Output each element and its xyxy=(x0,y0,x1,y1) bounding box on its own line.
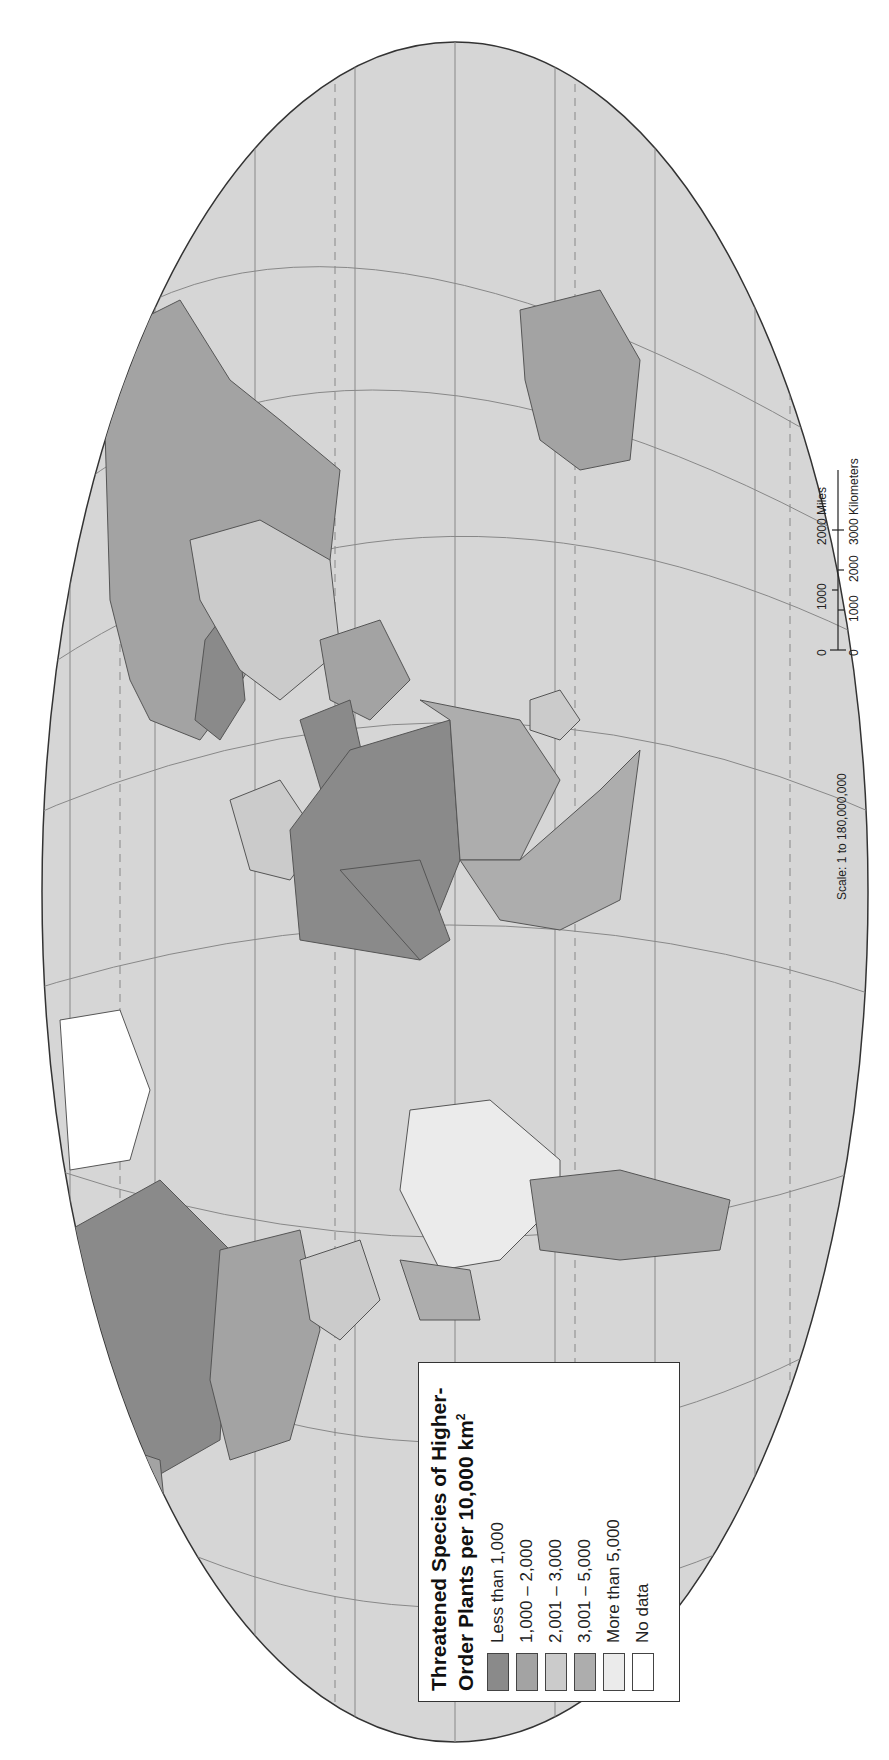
legend-item: 3,001 – 5,000 xyxy=(570,1373,599,1691)
legend-item: More than 5,000 xyxy=(599,1373,628,1691)
legend-swatch xyxy=(516,1653,538,1691)
legend-item: Less than 1,000 xyxy=(483,1373,512,1691)
scale-caption: Scale: 1 to 180,000,000 xyxy=(835,773,849,900)
legend-swatch xyxy=(574,1653,596,1691)
svg-text:1000: 1000 xyxy=(847,595,861,622)
svg-text:2000 Miles: 2000 Miles xyxy=(815,487,829,545)
legend-title: Threatened Species of Higher- Order Plan… xyxy=(427,1373,477,1691)
svg-text:3000 Kilometers: 3000 Kilometers xyxy=(847,458,861,545)
legend-swatch xyxy=(632,1653,654,1691)
svg-text:1000: 1000 xyxy=(815,583,829,610)
legend-item: 2,001 – 3,000 xyxy=(541,1373,570,1691)
legend-item: No data xyxy=(628,1373,657,1691)
legend-swatch xyxy=(603,1653,625,1691)
legend-swatch xyxy=(487,1653,509,1691)
legend-swatch xyxy=(545,1653,567,1691)
svg-text:2000: 2000 xyxy=(847,555,861,582)
legend: Threatened Species of Higher- Order Plan… xyxy=(418,1362,680,1702)
svg-text:0: 0 xyxy=(847,649,861,656)
legend-item: 1,000 – 2,000 xyxy=(512,1373,541,1691)
svg-text:0: 0 xyxy=(815,649,829,656)
